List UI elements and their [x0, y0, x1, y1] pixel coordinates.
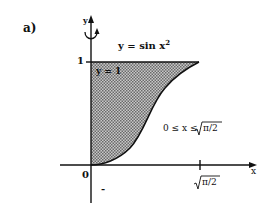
y-axis-label: y [83, 16, 88, 24]
curve-label: y = sin x2 [118, 39, 170, 51]
rotation-arrowhead-icon [95, 28, 100, 34]
domain-label-root: π/2 [203, 124, 218, 133]
shaded-region [91, 62, 199, 165]
minus-mark: - [101, 184, 105, 194]
x-tick-root: π/2 [202, 178, 217, 187]
line-label: y = 1 [96, 67, 121, 76]
x-axis-label: x [251, 167, 256, 176]
panel-label: a) [23, 22, 36, 34]
diagram-canvas [0, 0, 266, 207]
y-axis-arrow-icon [88, 15, 94, 23]
origin-label: 0 [82, 170, 89, 180]
curve-label-text: y = sin x [118, 40, 165, 51]
curve-exponent: 2 [165, 38, 170, 47]
y-tick-label: 1 [77, 56, 84, 66]
domain-label-prefix: 0 ≤ x ≤ [163, 124, 197, 133]
